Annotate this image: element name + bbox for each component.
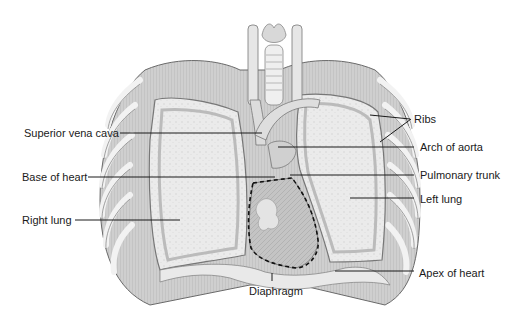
label-arch-of-aorta: Arch of aorta	[420, 141, 483, 153]
label-right-lung: Right lung	[22, 214, 72, 226]
label-left-lung: Left lung	[420, 193, 462, 205]
label-ribs: Ribs	[414, 113, 436, 125]
label-base-of-heart: Base of heart	[22, 171, 87, 183]
label-superior-vena-cava: Superior vena cava	[24, 127, 119, 139]
neck-vessels	[248, 24, 302, 105]
label-pulmonary-trunk: Pulmonary trunk	[420, 169, 500, 181]
label-apex-of-heart: Apex of heart	[419, 267, 484, 279]
label-diaphragm: Diaphragm	[249, 285, 303, 297]
